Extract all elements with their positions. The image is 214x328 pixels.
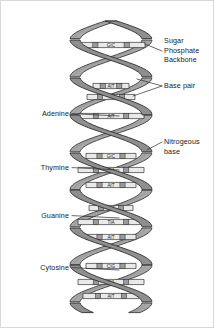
label-line: base xyxy=(164,147,180,156)
nitrogeous-base-block xyxy=(93,114,98,119)
label-line: Phosphate xyxy=(164,46,199,55)
base-pair-letters: G C xyxy=(107,154,116,159)
nitrogeous-base-block xyxy=(124,280,129,285)
label-line: Backbone xyxy=(164,55,197,64)
base-pair-letters: C G xyxy=(107,264,116,269)
nitrogeous-base-block xyxy=(100,84,105,89)
nitrogeous-base-block xyxy=(124,168,129,173)
nitrogeous-base-block xyxy=(120,264,125,269)
base-pair-letters: G C xyxy=(107,43,116,48)
nitrogeous-base-block xyxy=(97,183,102,188)
label-line: Base pair xyxy=(164,81,196,90)
nitrogeous-base-block xyxy=(97,264,102,269)
base-pair-rung: A T xyxy=(86,182,136,187)
nitrogeous-base-block xyxy=(120,154,125,159)
base-pair-rung: G C xyxy=(86,153,136,158)
base-pair-rung: A T xyxy=(83,293,139,298)
base-pair-letters: A T xyxy=(107,114,114,119)
label-cytosine: Cytosine xyxy=(40,263,69,272)
nitrogeous-base-block xyxy=(93,43,98,48)
base-pair-rung: T A xyxy=(78,219,144,224)
dna-diagram-figure: G CA TT AA TG CT AA TG CT AA TC GT AA T … xyxy=(0,0,214,328)
base-pair-letters: A T xyxy=(107,235,114,240)
label-adenine: Adenine xyxy=(42,109,69,118)
dna-diagram-canvas: G CA TT AA TG CT AA TG CT AA TC GT AA T … xyxy=(1,1,214,328)
label-line: Nitrogeous xyxy=(164,137,200,146)
nitrogeous-base-block xyxy=(124,114,129,119)
base-pair-letters: A T xyxy=(107,84,114,89)
nitrogeous-base-block xyxy=(97,235,102,240)
nitrogeous-base-block xyxy=(124,220,129,225)
nitrogeous-base-block xyxy=(96,294,101,299)
nitrogeous-base-block xyxy=(124,43,129,48)
base-pair-letters: A T xyxy=(107,294,114,299)
base-pair-rung: A T xyxy=(93,83,129,88)
label-guanine: Guanine xyxy=(41,211,69,220)
nitrogeous-base-block xyxy=(117,84,122,89)
base-pair-rung: C G xyxy=(86,263,136,268)
nitrogeous-base-block xyxy=(93,220,98,225)
base-pair-letters: A T xyxy=(107,183,114,188)
nitrogeous-base-block xyxy=(120,235,125,240)
nitrogeous-base-block xyxy=(120,183,125,188)
label-thymine: Thymine xyxy=(41,163,69,172)
nitrogeous-base-block xyxy=(97,154,102,159)
label-line: Sugar xyxy=(164,36,184,45)
label-base-pair: Base pair xyxy=(164,81,196,90)
nitrogeous-base-block xyxy=(121,294,126,299)
base-pair-letters: T A xyxy=(107,220,115,225)
